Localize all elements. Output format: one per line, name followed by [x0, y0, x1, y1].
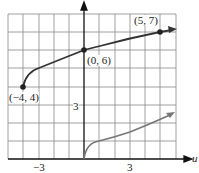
chart-canvas	[0, 0, 199, 173]
point-5-7	[157, 29, 163, 35]
xaxis-label: u	[192, 153, 198, 164]
ytick-3: 3	[73, 101, 79, 112]
label-point-5-7: (5, 7)	[134, 15, 158, 26]
point-neg4-4	[20, 84, 26, 90]
label-point-0-6: (0, 6)	[87, 55, 111, 66]
base-curve	[84, 115, 170, 159]
grid	[8, 14, 176, 159]
axes	[8, 2, 192, 162]
point-0-6	[81, 47, 87, 53]
label-point-neg4-4: (−4, 4)	[9, 92, 39, 103]
xtick-3: 3	[127, 162, 133, 173]
xtick-neg3: −3	[33, 162, 45, 173]
